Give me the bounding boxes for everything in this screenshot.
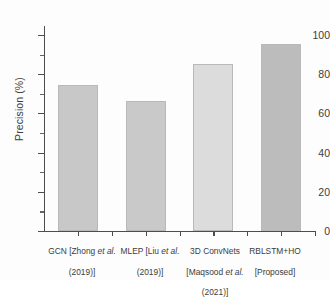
y-tick-40 <box>38 153 44 154</box>
y-tick-80 <box>38 74 44 75</box>
y-tick-0 <box>38 231 44 232</box>
y-tick-label-40: 40 <box>296 147 330 159</box>
y-tick-label-20: 20 <box>296 186 330 198</box>
x-label-line-1: RBLSTM+HO <box>249 246 300 256</box>
bar <box>193 64 233 231</box>
y-tick-100 <box>38 35 44 36</box>
y-minor-tick-50 <box>40 133 44 134</box>
bar <box>58 85 98 231</box>
y-tick-20 <box>38 192 44 193</box>
y-tick-label-100: 100 <box>296 29 330 41</box>
x-axis-label-rblstm-ho: RBLSTM+HO [Proposed] <box>227 236 323 277</box>
y-axis-title: Precision (%) <box>13 49 25 169</box>
y-minor-tick-30 <box>40 172 44 173</box>
y-tick-label-80: 80 <box>296 68 330 80</box>
y-tick-60 <box>38 113 44 114</box>
bar <box>126 101 166 231</box>
x-label-line-3: (2021)] <box>202 287 229 297</box>
bar <box>261 44 301 231</box>
x-label-line-2: [Proposed] <box>255 267 296 277</box>
y-minor-tick-10 <box>40 211 44 212</box>
y-minor-tick-70 <box>40 94 44 95</box>
y-tick-label-60: 60 <box>296 107 330 119</box>
y-axis-line <box>44 26 45 232</box>
y-minor-tick-90 <box>40 55 44 56</box>
